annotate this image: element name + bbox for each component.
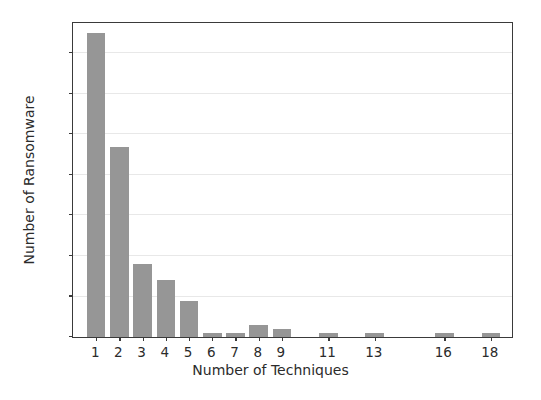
x-tick-label: 16 (435, 344, 452, 360)
x-tick-mark (189, 337, 190, 341)
y-tick-mark (69, 52, 73, 53)
x-tick-mark (375, 337, 376, 341)
x-tick-label: 9 (277, 344, 286, 360)
y-axis-label: Number of Ransomware (18, 22, 40, 338)
bar (273, 329, 292, 337)
bar (249, 325, 268, 337)
y-tick-mark (69, 295, 73, 296)
y-tick-mark (69, 255, 73, 256)
x-tick-mark (282, 337, 283, 341)
x-tick-label: 4 (161, 344, 170, 360)
x-tick-label: 2 (114, 344, 123, 360)
x-tick-label: 11 (319, 344, 336, 360)
bar (87, 33, 106, 337)
bar (180, 301, 199, 337)
bar-series (73, 23, 512, 337)
x-tick-label: 18 (481, 344, 498, 360)
x-tick-mark (166, 337, 167, 341)
x-tick-mark (259, 337, 260, 341)
x-tick-mark (119, 337, 120, 341)
y-tick-mark (69, 214, 73, 215)
plot-area (72, 22, 513, 338)
x-tick-mark (235, 337, 236, 341)
x-tick-mark (328, 337, 329, 341)
x-tick-mark (491, 337, 492, 341)
bar (133, 264, 152, 337)
y-tick-mark (69, 174, 73, 175)
x-tick-label: 5 (184, 344, 193, 360)
x-tick-label: 1 (91, 344, 100, 360)
bar (157, 280, 176, 337)
x-tick-mark (212, 337, 213, 341)
x-tick-label: 8 (253, 344, 262, 360)
x-tick-mark (96, 337, 97, 341)
bar (110, 147, 129, 337)
x-axis-label: Number of Techniques (0, 362, 541, 378)
x-tick-mark (444, 337, 445, 341)
x-tick-mark (143, 337, 144, 341)
y-tick-mark (69, 336, 73, 337)
y-tick-mark (69, 93, 73, 94)
y-tick-mark (69, 133, 73, 134)
x-tick-label: 3 (137, 344, 146, 360)
x-tick-label: 13 (365, 344, 382, 360)
chart-figure: 010203040506070 12345678911131618 Number… (0, 0, 541, 400)
x-tick-label: 6 (207, 344, 216, 360)
x-tick-label: 7 (230, 344, 239, 360)
